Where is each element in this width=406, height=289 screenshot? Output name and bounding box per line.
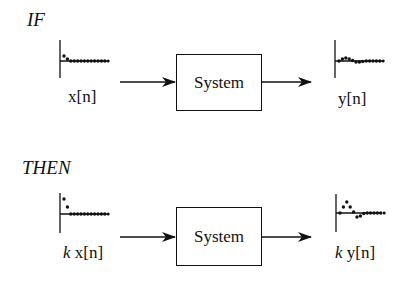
output-stem-plot-then <box>336 194 386 232</box>
input-stem-plot-then <box>60 193 110 233</box>
output-signal-label-if: y[n] <box>338 89 366 109</box>
output-name-if: y[n] <box>338 89 366 108</box>
output-scale-then: k <box>335 243 343 262</box>
condition-label-if: IF <box>27 9 45 31</box>
input-name-then: x[n] <box>75 243 103 262</box>
system-box-then: System <box>176 207 262 266</box>
input-stem-plot-if <box>60 40 110 78</box>
input-signal-label-if: x[n] <box>68 87 96 107</box>
condition-label-then: THEN <box>22 157 71 179</box>
system-box-if: System <box>176 54 262 111</box>
output-stem-plot-if <box>335 40 385 78</box>
input-name-if: x[n] <box>68 87 96 106</box>
input-scale-then: k <box>63 243 71 262</box>
input-signal-label-then: k x[n] <box>63 243 103 263</box>
output-signal-label-then: k y[n] <box>335 243 375 263</box>
system-label-then: System <box>194 227 244 247</box>
output-name-then: y[n] <box>347 243 375 262</box>
system-label-if: System <box>194 73 244 93</box>
